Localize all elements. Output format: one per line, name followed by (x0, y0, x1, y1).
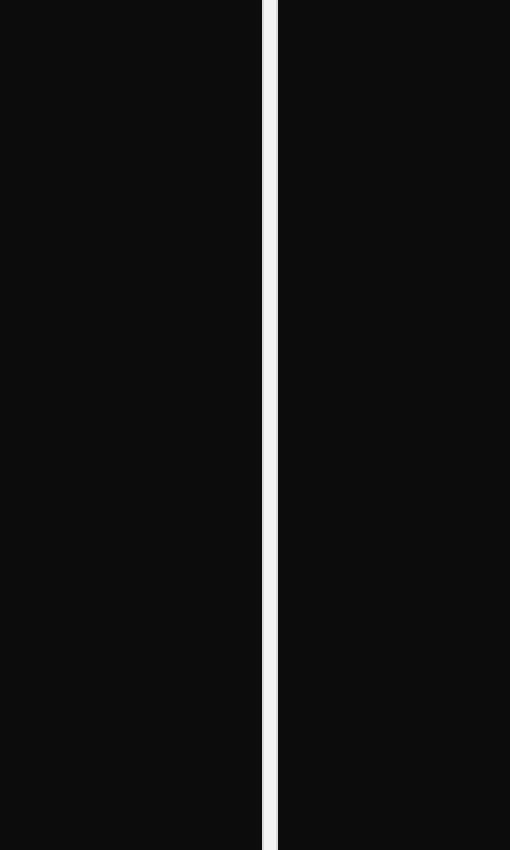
left-pane (0, 0, 262, 850)
split-divider-handle[interactable] (262, 0, 278, 850)
split-view-screen (0, 0, 510, 850)
right-pane (278, 0, 510, 850)
